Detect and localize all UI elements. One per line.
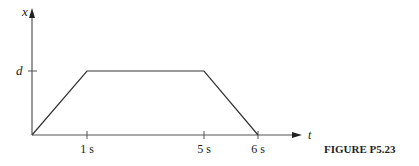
x-axis-arrow-icon [292, 132, 302, 138]
y-tick-label-d: d [16, 63, 23, 78]
x-tick-label-6s: 6 s [251, 142, 265, 156]
position-time-graph: x d t 1 s 5 s 6 s FIGURE P5.23 [0, 0, 419, 166]
x-tick-label-1s: 1 s [80, 142, 94, 156]
x-axis-label: t [308, 128, 312, 142]
figure-caption: FIGURE P5.23 [324, 143, 396, 155]
x-tick-label-5s: 5 s [197, 142, 211, 156]
y-axis-arrow-icon [29, 8, 35, 18]
x-vs-t-curve [32, 71, 258, 135]
y-axis-label: x [21, 4, 28, 19]
